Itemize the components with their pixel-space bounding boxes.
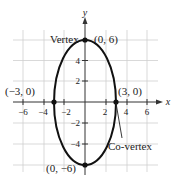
covertex-left-point	[51, 99, 56, 104]
x-tick-label: 4	[124, 107, 129, 117]
covertex-right-label: (3, 0)	[118, 85, 142, 98]
x-tick-label: 6	[145, 107, 150, 117]
vertex-bottom-label: (0, −6)	[46, 162, 76, 175]
x-tick-label: −6	[18, 107, 28, 117]
y-axis-label: y	[82, 7, 88, 18]
y-axis-arrow-icon	[83, 17, 88, 24]
vertex-top-point	[82, 37, 87, 42]
x-axis-label: x	[165, 96, 171, 107]
covertex-left-label: (−3, 0)	[5, 85, 35, 98]
y-tick-label: 2	[76, 76, 81, 86]
covertex-pointer-line	[116, 103, 122, 138]
vertex-bottom-point	[82, 162, 87, 167]
x-axis-arrow-icon	[156, 100, 163, 105]
x-tick-label: −4	[38, 107, 48, 117]
y-tick-label: −4	[70, 139, 80, 149]
y-tick-label: −2	[70, 118, 80, 128]
covertex-label: Co-vertex	[108, 140, 152, 152]
x-tick-label: −2	[61, 107, 71, 117]
vertex-label: Vertex	[50, 33, 79, 45]
x-tick-label: 2	[103, 107, 108, 117]
vertex-top-label: (0, 6)	[94, 33, 118, 46]
y-tick-label: 4	[76, 56, 81, 66]
ellipse-graph: −6 −4 −2 2 4 6 4 2 −2 −4 x y Vertex (0, …	[0, 0, 178, 187]
